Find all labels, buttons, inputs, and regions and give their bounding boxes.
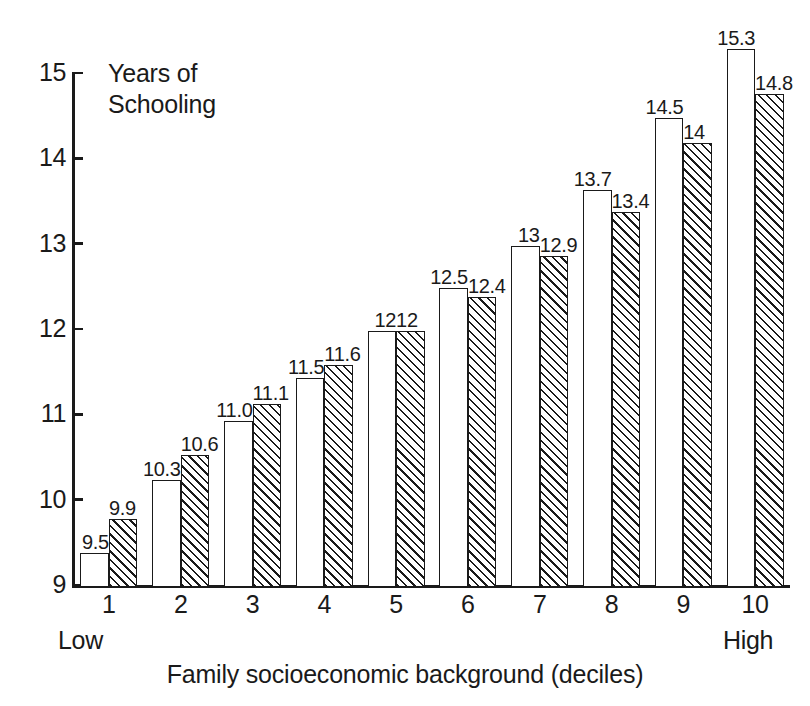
bar-series-a-8: 13.7 <box>583 190 612 587</box>
bar-group-4: 11.511.6 <box>296 40 353 587</box>
bar-chart: Years of Schooling 9101112131415 9.59.91… <box>0 0 810 706</box>
bar-value-label: 14 <box>683 122 705 142</box>
bar-series-b-4: 11.6 <box>324 365 353 587</box>
y-tick-label: 14 <box>39 145 66 170</box>
bar-group-7: 1312.9 <box>511 40 568 587</box>
bar-value-label: 13.4 <box>612 191 650 211</box>
x-axis-endcap-high: High <box>723 628 773 653</box>
bar-value-label: 11.1 <box>253 383 289 403</box>
bar-series-b-3: 11.1 <box>253 404 282 587</box>
bar-value-label: 12.4 <box>468 276 506 296</box>
bar-group-1: 9.59.9 <box>80 40 137 587</box>
x-tick-label-7: 7 <box>533 592 547 617</box>
x-tick-label-1: 1 <box>102 592 116 617</box>
bar-value-label: 15.3 <box>717 28 755 48</box>
bar-group-9: 14.514 <box>655 40 712 587</box>
bars-layer: 9.59.910.310.611.011.111.511.6121212.512… <box>72 40 790 587</box>
bar-value-label: 14.5 <box>646 97 684 117</box>
bar-series-b-6: 12.4 <box>468 297 497 587</box>
bar-group-3: 11.011.1 <box>224 40 281 587</box>
y-tick-label: 13 <box>39 231 66 256</box>
bar-series-a-9: 14.5 <box>655 118 684 587</box>
bar-value-label: 12.5 <box>430 267 468 287</box>
x-axis-endcap-low: Low <box>58 628 103 653</box>
bar-value-label: 11.6 <box>324 344 360 364</box>
x-tick-label-3: 3 <box>246 592 260 617</box>
bar-value-label: 10.3 <box>143 459 181 479</box>
bar-group-6: 12.512.4 <box>439 40 496 587</box>
bar-series-b-7: 12.9 <box>540 256 569 587</box>
y-tick-label: 9 <box>52 572 66 597</box>
bar-series-b-1: 9.9 <box>109 519 138 587</box>
bar-series-b-2: 10.6 <box>181 455 210 587</box>
bar-group-10: 15.314.8 <box>727 40 784 587</box>
bar-group-5: 1212 <box>368 40 425 587</box>
bar-group-2: 10.310.6 <box>152 40 209 587</box>
x-axis-title: Family socioeconomic background (deciles… <box>0 662 810 687</box>
bar-series-a-10: 15.3 <box>727 49 756 587</box>
bar-series-b-5: 12 <box>396 331 425 587</box>
bar-value-label: 13 <box>518 225 540 245</box>
bar-series-a-2: 10.3 <box>152 480 181 587</box>
y-tick-label: 11 <box>41 401 66 426</box>
bar-value-label: 9.9 <box>109 498 136 518</box>
bar-value-label: 12.9 <box>540 235 578 255</box>
bar-value-label: 12 <box>396 310 418 330</box>
y-tick-label: 10 <box>39 487 66 512</box>
x-tick-label-10: 10 <box>741 592 768 617</box>
x-tick-label-2: 2 <box>174 592 188 617</box>
bar-value-label: 14.8 <box>755 73 793 93</box>
x-tick-label-8: 8 <box>605 592 619 617</box>
x-tick-label-6: 6 <box>461 592 475 617</box>
bar-series-b-10: 14.8 <box>755 94 784 587</box>
bar-group-8: 13.713.4 <box>583 40 640 587</box>
x-tick-label-9: 9 <box>676 592 690 617</box>
bar-value-label: 12 <box>374 310 396 330</box>
bar-value-label: 11.5 <box>288 357 324 377</box>
y-tick-label: 12 <box>39 316 66 341</box>
x-axis-ticks: 12345678910 <box>72 592 790 632</box>
bar-series-a-7: 13 <box>511 246 540 587</box>
bar-series-a-1: 9.5 <box>80 553 109 587</box>
bar-series-b-9: 14 <box>683 143 712 587</box>
x-tick-label-4: 4 <box>317 592 331 617</box>
bar-series-a-4: 11.5 <box>296 378 325 587</box>
x-tick-label-5: 5 <box>389 592 403 617</box>
plot-area: 9101112131415 9.59.910.310.611.011.111.5… <box>72 40 790 587</box>
bar-value-label: 13.7 <box>574 169 612 189</box>
bar-series-a-6: 12.5 <box>439 288 468 587</box>
bar-value-label: 10.6 <box>181 434 219 454</box>
bar-series-b-8: 13.4 <box>612 212 641 587</box>
bar-value-label: 11.0 <box>216 400 252 420</box>
y-tick-label: 15 <box>39 60 66 85</box>
bar-value-label: 9.5 <box>82 532 109 552</box>
bar-series-a-5: 12 <box>368 331 397 587</box>
bar-series-a-3: 11.0 <box>224 421 253 587</box>
